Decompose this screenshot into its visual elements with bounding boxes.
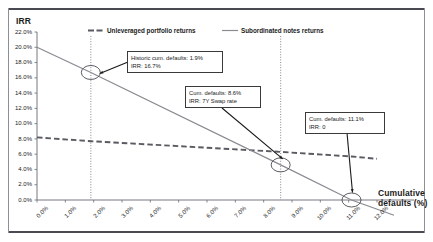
y-tick-label: 18.0% [6, 59, 32, 65]
chart-figure: IRR Cumulative defaults (%) 0.0%2.0%4.0%… [0, 0, 433, 242]
y-tick-label: 0.0% [6, 197, 32, 203]
annotation-swap-rate: Cum. defaults: 8.6% IRR: 7Y Swap rate [185, 86, 261, 108]
y-tick-label: 2.0% [6, 181, 32, 187]
y-tick-label: 16.0% [6, 74, 32, 80]
leader-zero [347, 133, 353, 193]
annotation-zero-line2: IRR: 0 [309, 123, 381, 131]
annotation-swap-line1: Cum. defaults: 8.6% [189, 89, 257, 97]
y-tick-label: 4.0% [6, 166, 32, 172]
legend-label-1: Unleveraged portfolio returns [107, 27, 196, 34]
y-tick-label: 20.0% [6, 44, 32, 50]
annotation-swap-line2: IRR: 7Y Swap rate [189, 97, 257, 105]
y-tick-label: 8.0% [6, 136, 32, 142]
y-tick-label: 12.0% [6, 105, 32, 111]
y-tick-label: 14.0% [6, 90, 32, 96]
y-tick-label: 10.0% [6, 120, 32, 126]
y-tick-label: 6.0% [6, 151, 32, 157]
y-tick-label: 22.0% [6, 29, 32, 35]
annotation-zero-line1: Cum. defaults: 11.1% [309, 115, 381, 123]
legend-label-2: Subordinated notes returns [241, 27, 324, 34]
annotation-zero-irr: Cum. defaults: 11.1% IRR: 0 [305, 112, 385, 134]
annotation-historic-defaults: Historic cum. defaults: 1.9% IRR: 16.7% [127, 51, 223, 73]
leader-historic [100, 62, 128, 73]
series-line-1 [37, 137, 377, 158]
annotation-historic-line2: IRR: 16.7% [131, 62, 219, 70]
annotation-historic-line1: Historic cum. defaults: 1.9% [131, 54, 219, 62]
